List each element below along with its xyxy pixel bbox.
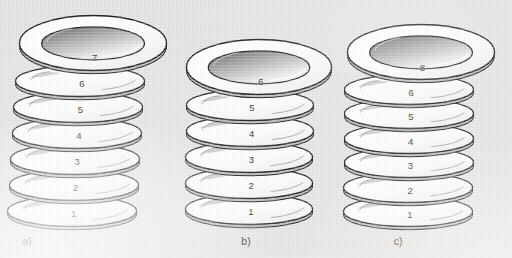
stack-caption: a) [0, 236, 112, 247]
plate-number-label: 7 [85, 53, 105, 63]
plate [18, 14, 168, 81]
plate-number-label: 1 [241, 207, 261, 217]
plate-number-label: 3 [241, 155, 261, 165]
plate-stack-a: 1234567a) [2, 18, 172, 258]
plate-number-label: 6 [72, 79, 92, 89]
plate-stack-c: 1234568c) [338, 18, 506, 258]
plate-number-label: 2 [400, 186, 420, 196]
plate-number-label: 6 [251, 77, 271, 87]
stack-caption: b) [166, 236, 326, 247]
plate-number-label: 4 [401, 137, 421, 147]
plate-stacks-figure: 1234567a) 123456b) 1234568c) [0, 0, 512, 258]
plate-number-label: 2 [241, 181, 261, 191]
plate-number-label: 1 [400, 210, 420, 220]
plate-number-label: 2 [66, 183, 86, 193]
plate-number-label: 4 [69, 131, 89, 141]
plate [185, 38, 333, 105]
plate-number-label: 8 [413, 63, 433, 73]
plate-number-label: 1 [64, 209, 84, 219]
plate-number-label: 5 [401, 112, 421, 122]
plate-number-label: 4 [242, 129, 262, 139]
plate-number-label: 3 [67, 157, 87, 167]
plate-number-label: 3 [401, 161, 421, 171]
plate-number-label: 5 [70, 105, 90, 115]
stack-caption: c) [314, 236, 482, 247]
plate-stack-b: 123456b) [178, 18, 338, 258]
plate-number-label: 6 [401, 88, 421, 98]
plate [346, 23, 496, 90]
plate-number-label: 5 [242, 103, 262, 113]
